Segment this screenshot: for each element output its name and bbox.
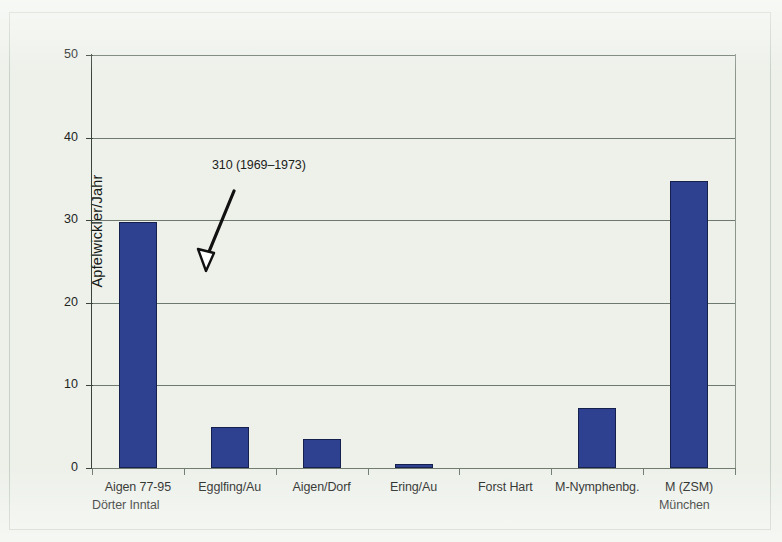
x-tick-label: Ering/Au: [368, 480, 460, 494]
bar: [670, 181, 708, 468]
y-tick-label-0: 0: [44, 460, 78, 474]
bar: [578, 408, 616, 468]
x-tick-mark: [459, 468, 460, 475]
y-tick-label-20: 20: [44, 295, 78, 309]
annotation-label: 310 (1969–1973): [212, 158, 306, 172]
gridline-20: [92, 303, 735, 304]
y-tick-mark-10: [86, 385, 93, 386]
y-tick-mark-20: [86, 303, 93, 304]
y-tick-mark-50: [86, 55, 93, 56]
chart-figure: Apfelwickler/Jahr 310 (1969–1973) 010203…: [0, 0, 782, 542]
gridline-30: [92, 220, 735, 221]
gridline-40: [92, 138, 735, 139]
x-tick-label: M-Nymphenbg.: [551, 480, 643, 494]
x-tick-label: M (ZSM): [643, 480, 735, 494]
x-tick-label: Aigen/Dorf: [276, 480, 368, 494]
y-tick-mark-40: [86, 138, 93, 139]
annotation-arrow-icon: [190, 185, 250, 277]
x-tick-mark: [735, 468, 736, 475]
group-label-right: München: [659, 498, 710, 512]
bar: [303, 439, 341, 468]
y-tick-label-50: 50: [44, 47, 78, 61]
x-tick-label: Egglfing/Au: [184, 480, 276, 494]
bar: [119, 222, 157, 468]
x-tick-mark: [368, 468, 369, 475]
x-tick-mark: [643, 468, 644, 475]
x-tick-mark: [184, 468, 185, 475]
y-tick-label-30: 30: [44, 212, 78, 226]
y-tick-label-40: 40: [44, 130, 78, 144]
y-tick-mark-30: [86, 220, 93, 221]
plot-right-edge: [735, 54, 736, 469]
bar: [211, 427, 249, 468]
gridline-50: [92, 55, 735, 56]
gridline-10: [92, 385, 735, 386]
x-tick-mark: [276, 468, 277, 475]
x-tick-mark: [551, 468, 552, 475]
x-tick-label: Aigen 77-95: [92, 480, 184, 494]
x-tick-label: Forst Hart: [459, 480, 551, 494]
group-label-left: Dörter Inntal: [92, 498, 159, 512]
x-axis-line: [92, 468, 736, 469]
y-axis-line: [91, 54, 92, 469]
plot-area: Apfelwickler/Jahr 310 (1969–1973): [92, 55, 735, 468]
x-tick-mark: [92, 468, 93, 475]
y-tick-label-10: 10: [44, 377, 78, 391]
